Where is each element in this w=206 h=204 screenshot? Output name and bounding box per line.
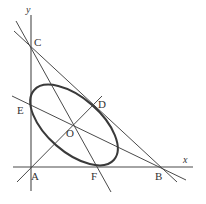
point-label-F: F [91, 170, 97, 182]
point-label-E: E [17, 104, 24, 116]
point-label-C: C [34, 36, 41, 48]
point-label-B: B [155, 170, 162, 182]
point-label-D: D [98, 98, 106, 110]
x-axis-label: x [182, 154, 188, 165]
point-label-O: O [66, 127, 74, 139]
line-AD [17, 96, 102, 182]
geometry-diagram: y x C E D O A F B [0, 0, 206, 204]
line-CB [14, 31, 177, 182]
point-label-A: A [31, 170, 39, 182]
y-axis-label: y [25, 4, 31, 15]
